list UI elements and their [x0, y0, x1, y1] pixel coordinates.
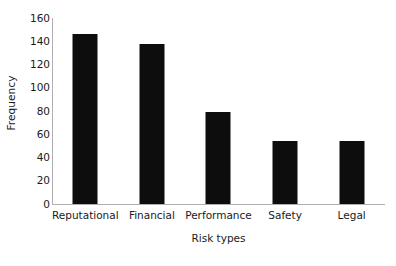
- bar-chart-figure: Frequency 160140120100806040200 Reputati…: [0, 0, 396, 266]
- x-axis-tick-label: Reputational: [52, 209, 119, 222]
- bar-financial[interactable]: [139, 44, 164, 204]
- bar-slot: [252, 18, 319, 204]
- plot-area: [52, 18, 385, 205]
- x-axis-title: Risk types: [52, 232, 385, 244]
- y-axis-title: Frequency: [0, 0, 22, 205]
- bar-reputational[interactable]: [73, 34, 98, 204]
- x-axis-tick-label: Safety: [252, 209, 319, 222]
- y-axis-tick-label: 60: [20, 129, 50, 140]
- bars-layer: [52, 18, 385, 205]
- x-axis-tick-label: Legal: [318, 209, 385, 222]
- y-axis-tick-label: 20: [20, 175, 50, 186]
- y-axis-tick-label: 120: [20, 59, 50, 70]
- y-axis-tick-label: 40: [20, 152, 50, 163]
- x-axis-tick-label: Performance: [185, 209, 252, 222]
- y-axis-tick-label: 0: [20, 199, 50, 210]
- y-axis-title-label: Frequency: [5, 75, 17, 130]
- y-axis-tick-label: 160: [20, 13, 50, 24]
- bar-slot: [119, 18, 186, 204]
- bar-slot: [318, 18, 385, 204]
- bar-performance[interactable]: [206, 112, 231, 204]
- bar-safety[interactable]: [273, 141, 298, 204]
- y-axis-tick-label: 100: [20, 82, 50, 93]
- y-axis-tick-label: 140: [20, 36, 50, 47]
- y-axis-tick-label: 80: [20, 106, 50, 117]
- x-axis-tick-labels: ReputationalFinancialPerformanceSafetyLe…: [52, 209, 385, 227]
- bar-slot: [52, 18, 119, 204]
- bar-legal[interactable]: [339, 141, 364, 204]
- y-axis-tick-labels: 160140120100806040200: [20, 0, 50, 210]
- bar-slot: [185, 18, 252, 204]
- x-axis-tick-label: Financial: [119, 209, 186, 222]
